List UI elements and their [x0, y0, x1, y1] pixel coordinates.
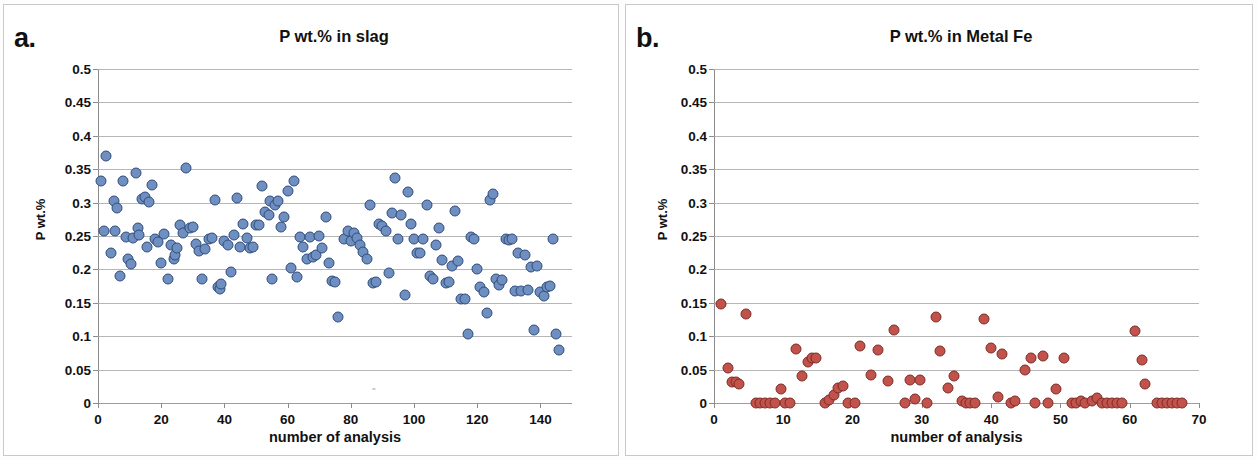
data-point-a: [405, 218, 416, 229]
data-point-a: [292, 272, 303, 283]
data-point-a: [209, 194, 220, 205]
y-tick-mark-a: [93, 169, 98, 170]
y-tick-label-a: 0.2: [72, 262, 91, 277]
data-point-a: [421, 199, 432, 210]
chart-title-a: P wt.% in slag: [94, 27, 574, 46]
data-point-b: [943, 383, 954, 394]
data-point-a: [115, 271, 126, 282]
data-point-b: [909, 393, 920, 404]
data-point-b: [1058, 352, 1069, 363]
data-point-a: [330, 277, 341, 288]
data-point-b: [854, 340, 865, 351]
gridline-y-b: [714, 102, 1199, 103]
data-point-a: [415, 248, 426, 259]
data-point-b: [790, 343, 801, 354]
data-point-b: [733, 378, 744, 389]
data-point-b: [889, 325, 900, 336]
data-point-a: [478, 287, 489, 298]
y-tick-mark-a: [93, 136, 98, 137]
x-tick-mark-a: [414, 403, 415, 408]
y-tick-label-a: 0.4: [72, 128, 91, 143]
gridline-y-b: [714, 303, 1199, 304]
y-tick-mark-b: [709, 136, 714, 137]
data-point-a: [548, 233, 559, 244]
data-point-a: [364, 199, 375, 210]
data-point-a: [383, 268, 394, 279]
data-point-a: [130, 167, 141, 178]
scan-artifact-a: ⁃: [371, 383, 377, 396]
x-tick-mark-b: [1130, 403, 1131, 408]
y-tick-label-a: 0.45: [65, 95, 91, 110]
data-point-a: [288, 176, 299, 187]
data-point-a: [323, 257, 334, 268]
x-tick-label-b: 40: [984, 412, 999, 427]
gridline-y-b: [714, 69, 1199, 70]
y-tick-mark-a: [93, 269, 98, 270]
data-point-a: [273, 196, 284, 207]
y-tick-label-a: 0.15: [65, 295, 91, 310]
data-point-a: [469, 233, 480, 244]
x-tick-label-a: 20: [154, 412, 169, 427]
data-point-a: [276, 221, 287, 232]
data-point-a: [396, 209, 407, 220]
data-point-a: [100, 150, 111, 161]
y-tick-label-b: 0.5: [688, 62, 707, 77]
y-tick-label-a: 0.35: [65, 162, 91, 177]
data-point-b: [948, 370, 959, 381]
data-point-b: [905, 375, 916, 386]
y-tick-mark-a: [93, 236, 98, 237]
y-tick-label-b: 0.15: [681, 295, 707, 310]
x-tick-label-b: 30: [914, 412, 929, 427]
data-point-a: [399, 289, 410, 300]
data-point-a: [481, 307, 492, 318]
data-point-b: [837, 381, 848, 392]
figure-root: a. P wt.% in slag P wt.% 00.050.10.150.2…: [0, 0, 1257, 460]
data-point-b: [1137, 355, 1148, 366]
data-point-a: [143, 196, 154, 207]
data-point-a: [488, 188, 499, 199]
data-point-a: [418, 233, 429, 244]
data-point-b: [986, 343, 997, 354]
chart-panel-a: a. P wt.% in slag P wt.% 00.050.10.150.2…: [3, 4, 619, 456]
data-point-b: [740, 309, 751, 320]
data-point-b: [899, 398, 910, 409]
data-point-a: [279, 211, 290, 222]
gridline-y-b: [714, 203, 1199, 204]
y-tick-label-b: 0.2: [688, 262, 707, 277]
x-tick-mark-a: [98, 403, 99, 408]
data-point-a: [222, 240, 233, 251]
data-point-b: [1051, 383, 1062, 394]
data-point-a: [247, 242, 258, 253]
gridline-y-b: [714, 136, 1199, 137]
data-point-a: [361, 253, 372, 264]
y-tick-mark-b: [709, 336, 714, 337]
data-point-b: [1117, 398, 1128, 409]
data-point-a: [254, 220, 265, 231]
data-point-b: [882, 375, 893, 386]
y-tick-label-a: 0.5: [72, 62, 91, 77]
data-point-b: [775, 383, 786, 394]
data-point-a: [200, 243, 211, 254]
data-point-a: [146, 179, 157, 190]
data-point-a: [134, 229, 145, 240]
data-point-a: [111, 202, 122, 213]
data-point-a: [551, 329, 562, 340]
data-point-b: [850, 398, 861, 409]
x-tick-mark-b: [1199, 403, 1200, 408]
x-tick-label-b: 60: [1122, 412, 1137, 427]
data-point-a: [427, 274, 438, 285]
gridline-y-a: [98, 203, 572, 204]
y-tick-label-a: 0.05: [65, 362, 91, 377]
x-tick-label-a: 40: [217, 412, 232, 427]
data-point-a: [459, 294, 470, 305]
x-tick-label-a: 60: [280, 412, 295, 427]
data-point-b: [915, 375, 926, 386]
gridline-y-a: [98, 69, 572, 70]
gridline-y-a: [98, 136, 572, 137]
x-tick-label-a: 80: [343, 412, 358, 427]
x-tick-mark-a: [224, 403, 225, 408]
x-tick-label-b: 10: [776, 412, 791, 427]
data-point-b: [722, 363, 733, 374]
y-tick-label-b: 0.05: [681, 362, 707, 377]
gridline-y-a: [98, 303, 572, 304]
